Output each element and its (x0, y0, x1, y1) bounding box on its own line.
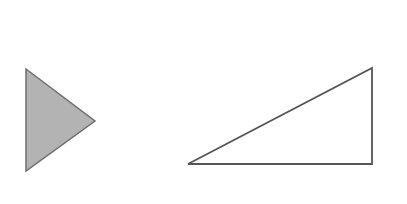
diagram-canvas (0, 0, 407, 204)
